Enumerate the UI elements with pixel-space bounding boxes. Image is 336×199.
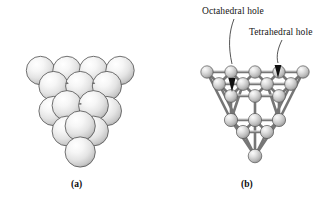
atom-ball [285, 78, 298, 91]
atom-ball [236, 125, 249, 138]
caption-panel-a: (a) [71, 179, 82, 189]
caption-panel-b: (b) [241, 179, 253, 189]
sphere [65, 137, 95, 167]
octahedral-hole-label: Octahedral hole [202, 6, 264, 16]
atom-ball [297, 66, 309, 78]
sphere-row-front [65, 137, 95, 167]
atom-ball [248, 149, 262, 163]
atom-ball [249, 66, 261, 78]
atom-ball [273, 90, 286, 103]
tetrahedral-hole-label: Tetrahedral hole [249, 27, 312, 37]
atom-ball [260, 125, 273, 138]
atom-ball [201, 66, 213, 78]
atom-ball [248, 113, 261, 126]
atom-ball [224, 113, 237, 126]
atom-ball [225, 90, 238, 103]
atom-ball [237, 78, 250, 91]
atom-ball [261, 78, 274, 91]
atom-ball [249, 90, 262, 103]
atom-ball [272, 113, 285, 126]
atom-ball [213, 78, 226, 91]
atom-ball [225, 66, 237, 78]
